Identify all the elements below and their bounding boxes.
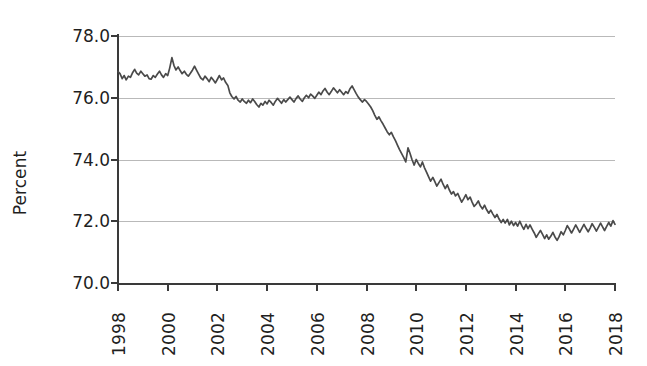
y-axis-tick-label: 72.0 [38,211,110,231]
x-axis-tick-mark [117,283,119,291]
x-axis-tick-mark [614,283,616,291]
x-axis-tick-mark [515,283,517,291]
x-axis-tick-mark [266,283,268,291]
x-axis-tick-mark [564,283,566,291]
y-axis-tick-label: 78.0 [38,26,110,46]
x-axis-tick-label: 2016 [556,296,574,356]
x-axis-tick-label: 2012 [457,296,475,356]
x-axis-tick-label: 2018 [606,296,624,356]
x-axis-tick-label: 1998 [109,296,127,356]
y-axis-tick-label: 74.0 [38,150,110,170]
line-chart: Percent 78.076.074.072.070.0 19982000200… [0,0,647,366]
x-axis-tick-label: 2010 [407,296,425,356]
x-axis-tick-label: 2002 [208,296,226,356]
x-axis-tick-mark [465,283,467,291]
y-axis-line [117,34,119,285]
x-axis-tick-mark [167,283,169,291]
gridline-y [118,98,615,99]
x-axis-tick-mark [316,283,318,291]
y-axis-title-text: Percent [10,151,30,216]
gridline-y [118,221,615,222]
x-axis-tick-mark [366,283,368,291]
y-axis-tick-labels: 78.076.074.072.070.0 [32,0,110,366]
plot-area [118,36,615,283]
y-axis-tick-label: 70.0 [38,273,110,293]
x-axis-tick-label: 2008 [358,296,376,356]
x-axis-tick-mark [216,283,218,291]
gridline-y [118,160,615,161]
x-axis-tick-mark [415,283,417,291]
x-axis-tick-label: 2006 [308,296,326,356]
y-axis-tick-label: 76.0 [38,88,110,108]
x-axis-tick-label: 2004 [258,296,276,356]
gridline-y [118,36,615,37]
x-axis-tick-label: 2014 [507,296,525,356]
x-axis-tick-label: 2000 [159,296,177,356]
